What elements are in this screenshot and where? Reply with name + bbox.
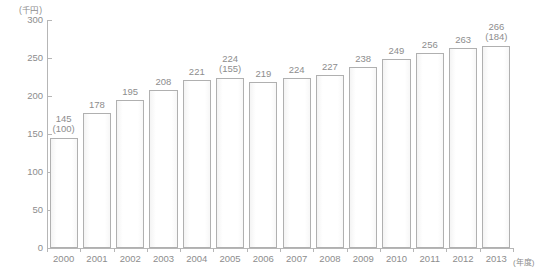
y-axis-tick-label: 0 [3, 243, 43, 253]
bar-value: 224 [289, 64, 305, 75]
bar-value: 221 [189, 66, 205, 77]
y-axis-tick-label: 50 [3, 205, 43, 215]
bar [316, 75, 344, 248]
bar-value: 256 [422, 39, 438, 50]
bar-value-label: 208 [143, 77, 184, 88]
x-axis-tick [313, 248, 314, 252]
bar-chart: (千円) (年度) 300250200150100500 20002001200… [0, 0, 544, 277]
x-axis-tick [147, 248, 148, 252]
bar [416, 53, 444, 248]
x-axis-tick [446, 248, 447, 252]
bar-value-label: 266(184) [476, 22, 517, 43]
bar [116, 100, 144, 248]
bar-value: 227 [322, 61, 338, 72]
bar-value: 178 [89, 99, 105, 110]
bar [83, 113, 111, 248]
x-axis-tick [213, 248, 214, 252]
x-axis-tick [247, 248, 248, 252]
bar-value: 208 [156, 76, 172, 87]
x-axis-tick [47, 248, 48, 252]
x-axis-tick [380, 248, 381, 252]
bar-value: 195 [122, 86, 138, 97]
bar-value: 145 [56, 113, 72, 124]
x-axis-tick [480, 248, 481, 252]
x-axis-tick [513, 248, 514, 252]
x-axis-tick [80, 248, 81, 252]
bar-index-value: (100) [43, 124, 84, 135]
bar-value-label: 145(100) [43, 114, 84, 135]
bar-value-label: 178 [76, 100, 117, 111]
bar-value: 266 [488, 21, 504, 32]
bar [149, 90, 177, 248]
y-axis-tick-label: 100 [3, 167, 43, 177]
bar-value: 224 [222, 53, 238, 64]
y-axis-tick-label: 150 [3, 129, 43, 139]
bar-value: 238 [355, 53, 371, 64]
x-axis-tick-label: 2013 [476, 254, 517, 264]
bar [183, 80, 211, 248]
x-axis-tick [280, 248, 281, 252]
x-axis-tick [114, 248, 115, 252]
bar [482, 46, 510, 248]
bar [382, 59, 410, 248]
y-axis-tick-label: 200 [3, 91, 43, 101]
bar-index-value: (184) [476, 32, 517, 43]
bar-value: 249 [389, 45, 405, 56]
y-axis-tick [47, 96, 52, 97]
bar-value: 263 [455, 34, 471, 45]
x-axis-tick [180, 248, 181, 252]
bar [249, 82, 277, 248]
bar [349, 67, 377, 248]
bar [449, 48, 477, 248]
bar [283, 78, 311, 248]
bar [50, 138, 78, 248]
y-axis-tick-label: 250 [3, 53, 43, 63]
x-axis-tick [413, 248, 414, 252]
x-axis-tick [347, 248, 348, 252]
bar-value: 219 [255, 68, 271, 79]
y-axis-tick-label: 300 [3, 15, 43, 25]
y-axis-tick [47, 20, 52, 21]
bar-value-label: 195 [110, 87, 151, 98]
y-axis-tick [47, 58, 52, 59]
bar [216, 78, 244, 248]
